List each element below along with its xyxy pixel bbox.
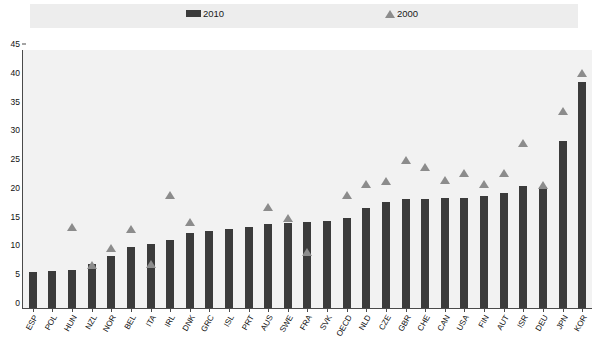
x-tick-label: OECD bbox=[335, 314, 353, 338]
x-tick-mark bbox=[582, 308, 583, 312]
legend-label-2000: 2000 bbox=[397, 9, 418, 19]
y-tick-label: 10 bbox=[4, 241, 20, 250]
x-tick-mark bbox=[131, 308, 132, 312]
chart-column: AUT bbox=[494, 50, 514, 308]
x-tick-label: IRL bbox=[164, 314, 177, 329]
chart-column: PRT bbox=[239, 50, 259, 308]
x-tick-mark bbox=[92, 308, 93, 312]
x-tick-mark bbox=[111, 308, 112, 312]
marker-2000 bbox=[538, 181, 548, 189]
chart-column: DEU bbox=[533, 50, 553, 308]
y-tick-label: 35 bbox=[4, 97, 20, 106]
x-tick-mark bbox=[523, 308, 524, 312]
marker-2000 bbox=[126, 225, 136, 233]
x-tick-label: SWE bbox=[279, 314, 295, 334]
bars-container: ESPPOLHUNNZLNORBELITAIRLDNKGRCISLPRTAUSS… bbox=[23, 50, 592, 308]
bar-2010 bbox=[127, 247, 135, 308]
bar-2010 bbox=[578, 82, 586, 308]
marker-2000 bbox=[361, 180, 371, 188]
chart-column: OECD bbox=[337, 50, 357, 308]
x-tick-mark bbox=[327, 308, 328, 312]
bar-2010 bbox=[362, 208, 370, 308]
y-tick-label: 15 bbox=[4, 212, 20, 221]
marker-2000 bbox=[401, 156, 411, 164]
y-tick-label: 5 bbox=[4, 270, 20, 279]
x-tick-mark bbox=[484, 308, 485, 312]
chart-column: SWE bbox=[278, 50, 298, 308]
chart-column: USA bbox=[455, 50, 475, 308]
chart-column: ESP bbox=[23, 50, 43, 308]
marker-2000 bbox=[283, 214, 293, 222]
x-tick-mark bbox=[288, 308, 289, 312]
marker-2000 bbox=[165, 191, 175, 199]
bar-2010 bbox=[559, 141, 567, 308]
marker-2000 bbox=[381, 177, 391, 185]
x-tick-label: NOR bbox=[102, 314, 118, 333]
plot-area: ESPPOLHUNNZLNORBELITAIRLDNKGRCISLPRTAUSS… bbox=[22, 50, 592, 309]
bar-2010 bbox=[68, 270, 76, 308]
x-tick-mark bbox=[543, 308, 544, 312]
bar-2010 bbox=[88, 264, 96, 308]
bar-2010 bbox=[205, 231, 213, 308]
legend-entry-2010: 2010 bbox=[186, 9, 224, 19]
x-tick-label: CAN bbox=[436, 314, 451, 333]
y-tick-label: 20 bbox=[4, 184, 20, 193]
bar-2010 bbox=[382, 202, 390, 308]
marker-2000 bbox=[558, 107, 568, 115]
bar-2010 bbox=[186, 233, 194, 308]
chart-column: AUS bbox=[258, 50, 278, 308]
chart-column: NOR bbox=[101, 50, 121, 308]
x-tick-label: POL bbox=[44, 314, 59, 332]
marker-2000 bbox=[479, 180, 489, 188]
marker-2000 bbox=[459, 169, 469, 177]
marker-2000 bbox=[499, 169, 509, 177]
y-tick-label: 40 bbox=[4, 69, 20, 78]
bar-2010 bbox=[147, 244, 155, 308]
x-tick-mark bbox=[386, 308, 387, 312]
x-tick-label: NZL bbox=[84, 314, 98, 331]
x-tick-label: DNK bbox=[181, 314, 196, 333]
marker-2000 bbox=[440, 176, 450, 184]
y-tick-label: 30 bbox=[4, 126, 20, 135]
x-tick-label: FRA bbox=[299, 314, 314, 332]
x-tick-label: PRT bbox=[241, 314, 256, 332]
x-tick-label: CZE bbox=[378, 314, 393, 332]
chart-screenshot: 2010 2000 051015202530354045 ESPPOLHUNNZ… bbox=[0, 0, 598, 357]
bar-2010 bbox=[264, 224, 272, 308]
y-tick-label: 45 bbox=[4, 40, 20, 49]
x-tick-label: KOR bbox=[574, 314, 590, 333]
x-tick-label: ISR bbox=[517, 314, 531, 330]
x-tick-mark bbox=[190, 308, 191, 312]
x-tick-label: ESP bbox=[25, 314, 40, 332]
x-tick-mark bbox=[406, 308, 407, 312]
x-tick-label: ISL bbox=[223, 314, 236, 328]
x-tick-label: BEL bbox=[123, 314, 137, 331]
y-tick-label: 0 bbox=[4, 299, 20, 308]
bar-2010 bbox=[245, 227, 253, 308]
marker-2000 bbox=[518, 139, 528, 147]
x-tick-mark bbox=[151, 308, 152, 312]
chart-column: FIN bbox=[474, 50, 494, 308]
bar-2010 bbox=[29, 272, 37, 308]
x-tick-mark bbox=[229, 308, 230, 312]
x-tick-mark bbox=[33, 308, 34, 312]
x-tick-mark bbox=[504, 308, 505, 312]
x-tick-label: NLD bbox=[358, 314, 373, 332]
bar-2010 bbox=[519, 186, 527, 308]
marker-2000 bbox=[185, 218, 195, 226]
x-tick-label: JPN bbox=[555, 314, 569, 331]
x-tick-mark bbox=[268, 308, 269, 312]
x-tick-label: GRC bbox=[200, 314, 216, 333]
chart-column: IRL bbox=[160, 50, 180, 308]
bar-2010 bbox=[48, 271, 56, 308]
chart-column: DNK bbox=[180, 50, 200, 308]
bar-2010 bbox=[303, 222, 311, 308]
bar-2010 bbox=[284, 223, 292, 308]
chart-column: KOR bbox=[572, 50, 592, 308]
x-tick-mark bbox=[170, 308, 171, 312]
x-tick-mark bbox=[249, 308, 250, 312]
bar-2010 bbox=[460, 198, 468, 309]
bar-2010 bbox=[225, 229, 233, 308]
bar-2010 bbox=[343, 218, 351, 308]
x-tick-label: CHE bbox=[417, 314, 432, 333]
